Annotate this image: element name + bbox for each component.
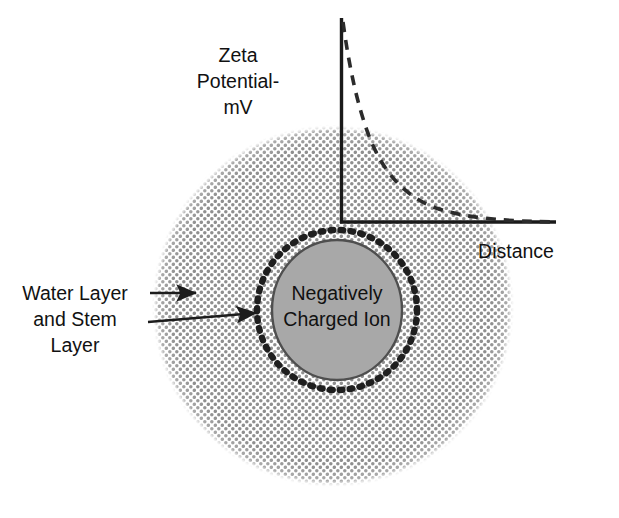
core-particle-label-line-1: Negatively	[291, 282, 382, 304]
water-layer-label-line-3: Layer	[51, 334, 100, 356]
x-axis-label-text: Distance	[478, 240, 554, 262]
water-layer-label-line-2: and Stem	[33, 308, 116, 330]
water-layer-label: Water Layer and Stem Layer	[22, 282, 128, 356]
y-axis-label: Zeta Potential- mV	[197, 44, 279, 118]
y-axis-label-line-3: mV	[223, 96, 252, 118]
water-layer-label-line-1: Water Layer	[22, 282, 128, 304]
zeta-potential-figure: Zeta Potential- mV Distance Water Layer …	[0, 0, 619, 518]
y-axis-label-line-1: Zeta	[218, 44, 257, 66]
core-particle-label-line-2: Charged Ion	[283, 308, 390, 330]
x-axis-label: Distance	[478, 240, 554, 262]
diagram-canvas: Zeta Potential- mV Distance Water Layer …	[0, 0, 619, 518]
y-axis-label-line-2: Potential-	[197, 70, 279, 92]
